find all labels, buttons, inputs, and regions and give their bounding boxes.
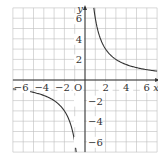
x-tick-label: −6 — [14, 82, 29, 93]
curve-branch-negative — [13, 89, 76, 152]
y-tick-label: 2 — [76, 54, 82, 65]
x-tick-label: 2 — [102, 82, 108, 93]
y-tick-label: −4 — [88, 116, 103, 127]
y-tick-label: 6 — [76, 13, 82, 24]
y-tick-label: −6 — [88, 137, 103, 148]
y-axis-label: y — [76, 3, 83, 14]
tick-label-bg — [74, 116, 84, 127]
x-tick-label: −4 — [34, 82, 49, 93]
y-axis-arrow-icon — [83, 5, 87, 10]
tick-label-bg — [74, 96, 84, 107]
x-tick-label: 6 — [144, 82, 150, 93]
hyperbola-chart: −6−4−2246642−2−4−6Oxy — [0, 0, 158, 163]
x-axis-label: x — [153, 82, 158, 93]
y-tick-label: −2 — [88, 96, 103, 107]
x-tick-label: 4 — [123, 82, 129, 93]
y-tick-label: 4 — [76, 34, 82, 45]
x-tick-label: −2 — [55, 82, 70, 93]
curve-branch-positive — [94, 8, 157, 71]
tick-label-bg — [74, 137, 84, 148]
origin-label: O — [74, 82, 82, 93]
